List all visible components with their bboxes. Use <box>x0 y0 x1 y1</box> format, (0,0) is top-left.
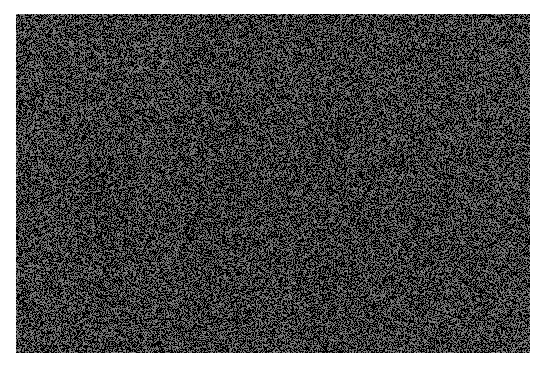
page-root <box>0 0 548 375</box>
random-noise-image <box>16 14 530 353</box>
